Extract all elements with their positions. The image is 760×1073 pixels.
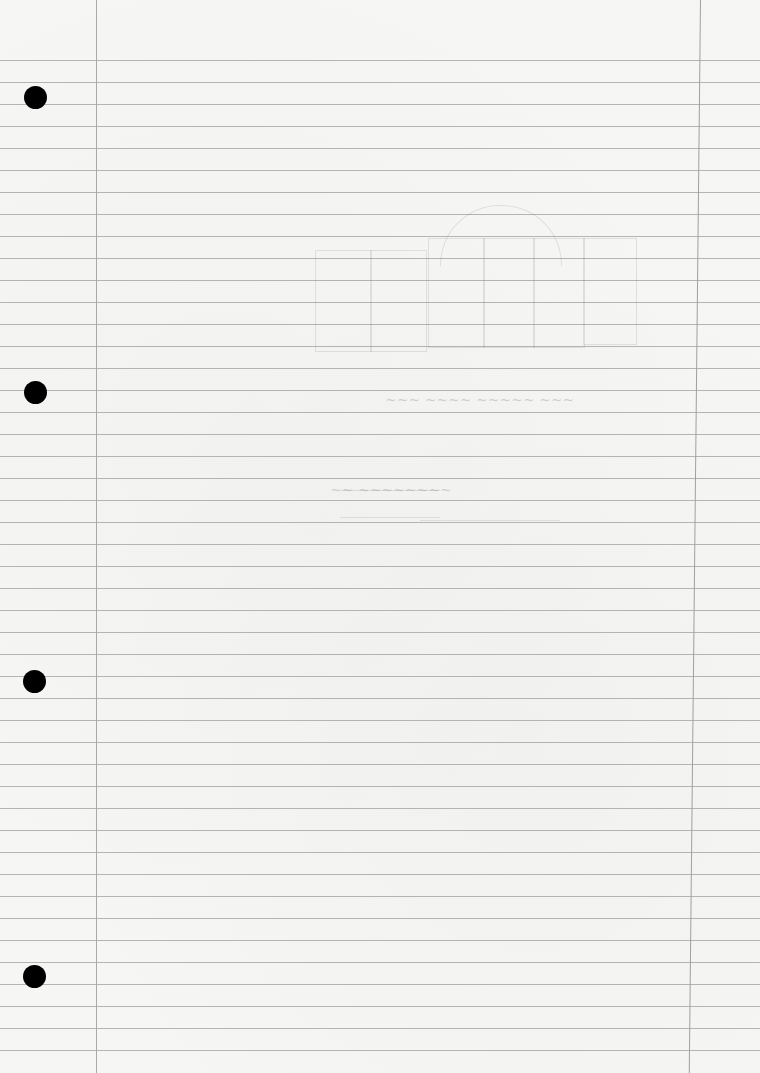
ruled-line bbox=[0, 764, 760, 765]
ruled-line bbox=[0, 676, 760, 677]
ruled-line bbox=[0, 830, 760, 831]
ruled-line bbox=[0, 1050, 760, 1051]
ruled-line bbox=[0, 148, 760, 149]
ruled-line bbox=[0, 786, 760, 787]
ruled-line bbox=[0, 434, 760, 435]
ruled-line bbox=[0, 698, 760, 699]
ruled-line bbox=[0, 632, 760, 633]
ruled-line bbox=[0, 720, 760, 721]
ruled-line bbox=[0, 456, 760, 457]
ruled-line bbox=[0, 940, 760, 941]
punch-hole bbox=[23, 965, 46, 988]
ruled-line bbox=[0, 742, 760, 743]
punch-hole bbox=[24, 86, 47, 109]
ruled-line bbox=[0, 236, 760, 237]
ruled-line bbox=[0, 478, 760, 479]
ruled-line bbox=[0, 192, 760, 193]
ruled-line bbox=[0, 390, 760, 391]
ruled-line bbox=[0, 126, 760, 127]
ruled-line bbox=[0, 522, 760, 523]
punch-hole bbox=[24, 381, 47, 404]
ruled-line bbox=[0, 544, 760, 545]
ruled-line bbox=[0, 368, 760, 369]
ruled-line bbox=[0, 412, 760, 413]
ruled-line bbox=[0, 1006, 760, 1007]
ruled-line bbox=[0, 874, 760, 875]
ruled-line bbox=[0, 918, 760, 919]
ruled-line bbox=[0, 610, 760, 611]
ruled-line bbox=[0, 808, 760, 809]
right-margin-line bbox=[689, 0, 701, 1073]
ruled-line bbox=[0, 962, 760, 963]
ruled-line bbox=[0, 852, 760, 853]
ruled-line bbox=[0, 214, 760, 215]
notebook-page: ~~~ ~~~~ ~~~~~ ~~~ ~~ ~~~~~~~~ bbox=[0, 0, 760, 1073]
ruled-line bbox=[0, 82, 760, 83]
punch-hole bbox=[23, 670, 46, 693]
ruled-line bbox=[0, 896, 760, 897]
left-margin-line bbox=[96, 0, 97, 1073]
ruled-line bbox=[0, 104, 760, 105]
ruled-line bbox=[0, 60, 760, 61]
ruled-line bbox=[0, 654, 760, 655]
ruled-line bbox=[0, 1028, 760, 1029]
ruled-line bbox=[0, 984, 760, 985]
ruled-line bbox=[0, 588, 760, 589]
ruled-line bbox=[0, 170, 760, 171]
ruled-line bbox=[0, 566, 760, 567]
